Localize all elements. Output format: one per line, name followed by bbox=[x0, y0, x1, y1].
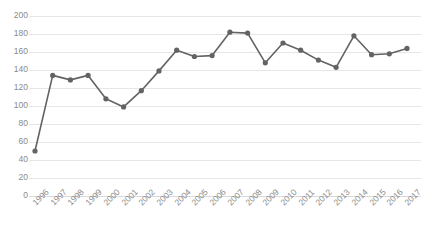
series-line bbox=[35, 32, 407, 151]
data-point bbox=[156, 68, 161, 73]
data-point bbox=[121, 104, 126, 109]
data-point bbox=[174, 48, 179, 53]
data-point bbox=[298, 48, 303, 53]
data-point bbox=[387, 51, 392, 56]
data-point bbox=[192, 54, 197, 59]
data-point bbox=[86, 73, 91, 78]
data-point bbox=[245, 30, 250, 35]
data-point bbox=[351, 33, 356, 38]
data-point bbox=[103, 96, 108, 101]
line-chart: 020406080100120140160180200 199619971998… bbox=[0, 0, 427, 240]
data-point bbox=[280, 40, 285, 45]
data-point bbox=[50, 73, 55, 78]
data-point bbox=[316, 58, 321, 63]
data-series-layer bbox=[0, 0, 427, 240]
data-point bbox=[369, 52, 374, 57]
data-point bbox=[68, 77, 73, 82]
data-point bbox=[404, 46, 409, 51]
data-point bbox=[139, 88, 144, 93]
series-markers bbox=[32, 30, 409, 154]
data-point bbox=[334, 65, 339, 70]
data-point bbox=[227, 30, 232, 35]
plot-area: 020406080100120140160180200 199619971998… bbox=[0, 0, 427, 240]
data-point bbox=[32, 148, 37, 153]
data-point bbox=[263, 60, 268, 65]
data-point bbox=[210, 53, 215, 58]
